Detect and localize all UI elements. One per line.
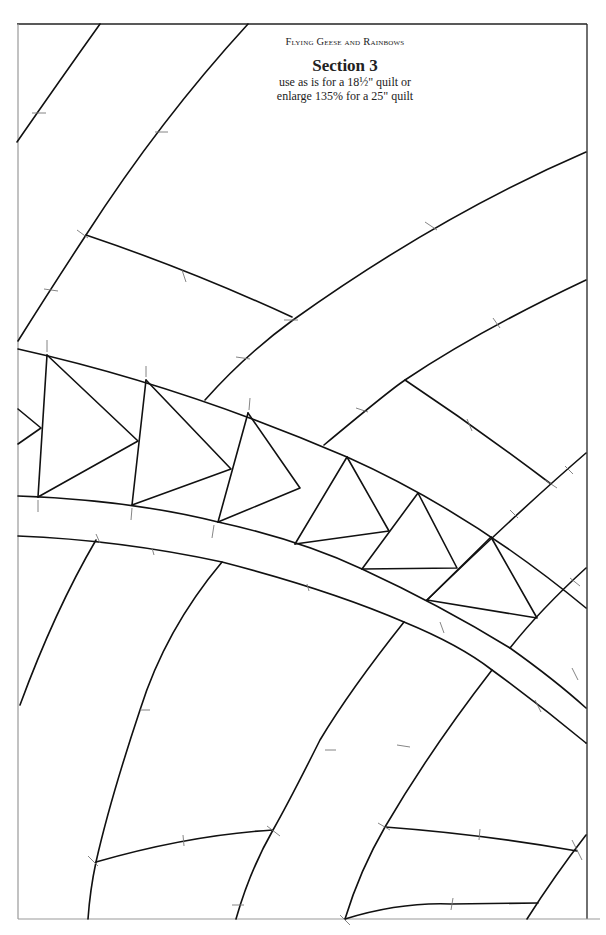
- series-title: Flying Geese and Rainbows: [250, 36, 440, 47]
- title-block: Flying Geese and Rainbows Section 3 use …: [250, 36, 440, 103]
- registration-marks: [32, 113, 582, 925]
- pattern-canvas: [0, 0, 606, 935]
- section-title: Section 3: [250, 57, 440, 75]
- instruction-line-2: enlarge 135% for a 25" quilt: [250, 89, 440, 103]
- page-border: [17, 24, 600, 919]
- lower-arcs: [20, 540, 586, 919]
- flying-geese-band: [18, 349, 586, 743]
- instruction-line-1: use as is for a 18½" quilt or: [250, 75, 440, 89]
